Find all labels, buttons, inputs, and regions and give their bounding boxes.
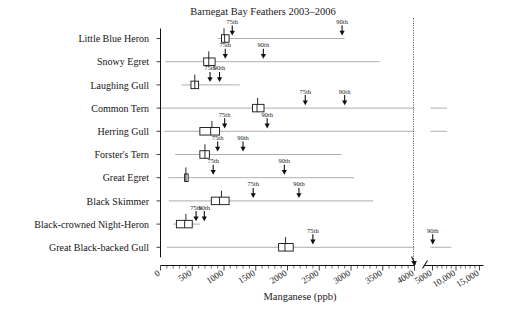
percentile-caption: 75th xyxy=(247,180,259,187)
box xyxy=(185,174,189,182)
x-tick-label: 10,000 xyxy=(431,267,458,289)
species-row: 75th90th xyxy=(167,227,451,251)
p75-marker: 75th xyxy=(307,227,319,245)
species-row: 75th90th xyxy=(168,157,354,181)
category-label: Great Black-backed Gull xyxy=(49,242,149,253)
x-axis-title-group: Manganese (ppb) xyxy=(263,291,337,303)
percentile-caption: 75th xyxy=(219,41,231,48)
p90-marker: 90th xyxy=(214,64,226,82)
species-row: 75th90th xyxy=(173,204,211,228)
species-row: 75th90th xyxy=(218,18,349,42)
p90-marker: 90th xyxy=(427,227,439,245)
percentile-caption: 90th xyxy=(293,180,305,187)
species-row: 75th90th xyxy=(166,41,380,65)
x-tick-label: 500 xyxy=(177,267,194,283)
category-label: Black Skimmer xyxy=(87,196,150,207)
x-tick-label: 1000 xyxy=(204,267,225,285)
x-tick-label: 1500 xyxy=(236,267,257,285)
percentile-caption: 90th xyxy=(261,111,273,118)
percentile-caption: 75th xyxy=(207,157,219,164)
box-plot-chart: Barnegat Bay Feathers 2003–2006 75th90th… xyxy=(0,0,526,313)
p90-marker: 90th xyxy=(261,111,273,129)
p90-marker: 90th xyxy=(279,157,291,175)
percentile-caption: 90th xyxy=(214,64,226,71)
percentile-caption: 90th xyxy=(336,18,348,25)
category-label: Snowy Egret xyxy=(97,56,149,67)
percentile-caption: 75th xyxy=(226,18,238,25)
category-label: Forster's Tern xyxy=(94,149,149,160)
p90-marker: 90th xyxy=(237,134,249,152)
x-axis-title: Manganese (ppb) xyxy=(263,291,337,303)
species-row: 75th90th xyxy=(175,134,341,158)
axis-break-group xyxy=(411,18,427,269)
species-row: 75th90th xyxy=(161,88,447,112)
box xyxy=(279,244,294,252)
p90-marker: 90th xyxy=(293,180,305,198)
x-tick-label: 15,000 xyxy=(454,267,481,289)
box xyxy=(211,197,229,205)
p90-marker: 90th xyxy=(336,18,348,36)
percentile-caption: 90th xyxy=(237,134,249,141)
percentile-caption: 75th xyxy=(219,111,231,118)
percentile-caption: 90th xyxy=(279,157,291,164)
p90-marker: 90th xyxy=(339,88,351,106)
p75-marker: 75th xyxy=(299,88,311,106)
p75-marker: 75th xyxy=(219,111,231,129)
p75-marker: 75th xyxy=(212,134,224,152)
x-tick-label: 3500 xyxy=(363,267,384,285)
x-tick-label: 5000 xyxy=(413,267,434,285)
percentile-caption: 90th xyxy=(339,88,351,95)
p75-marker: 75th xyxy=(247,180,259,198)
chart-container: Barnegat Bay Feathers 2003–2006 75th90th… xyxy=(0,0,526,313)
x-tick-label: 2500 xyxy=(300,267,321,285)
category-label: Herring Gull xyxy=(98,126,150,137)
category-label: Common Tern xyxy=(91,103,149,114)
percentile-caption: 75th xyxy=(299,88,311,95)
category-label: Laughing Gull xyxy=(90,80,149,91)
plot-rows-group: 75th90th75th90th75th90th75th90th75th90th… xyxy=(161,18,451,251)
p75-marker: 75th xyxy=(219,41,231,59)
p90-marker: 90th xyxy=(199,204,211,222)
percentile-caption: 90th xyxy=(199,204,211,211)
x-tick-label: 3000 xyxy=(331,267,352,285)
chart-title: Barnegat Bay Feathers 2003–2006 xyxy=(190,6,336,17)
species-row: 75th90th xyxy=(169,180,373,204)
percentile-caption: 75th xyxy=(307,227,319,234)
category-labels-group: Little Blue HeronSnowy EgretLaughing Gul… xyxy=(34,29,160,258)
p75-marker: 75th xyxy=(207,157,219,175)
category-label: Great Egret xyxy=(103,172,150,183)
species-row: 75th90th xyxy=(181,64,239,88)
p90-marker: 90th xyxy=(258,41,270,59)
category-label: Little Blue Heron xyxy=(78,33,149,44)
x-axis-group: 05001000150020002500300035004000500010,0… xyxy=(152,266,483,290)
x-tick-label: 2000 xyxy=(268,267,289,285)
species-row: 75th90th xyxy=(164,111,447,135)
percentile-caption: 90th xyxy=(427,227,439,234)
p75-marker: 75th xyxy=(226,18,238,36)
category-label: Black-crowned Night-Heron xyxy=(34,219,149,230)
axis-break-mark-right xyxy=(423,261,428,269)
percentile-caption: 90th xyxy=(258,41,270,48)
percentile-caption: 75th xyxy=(212,134,224,141)
chart-title-group: Barnegat Bay Feathers 2003–2006 xyxy=(190,6,336,17)
